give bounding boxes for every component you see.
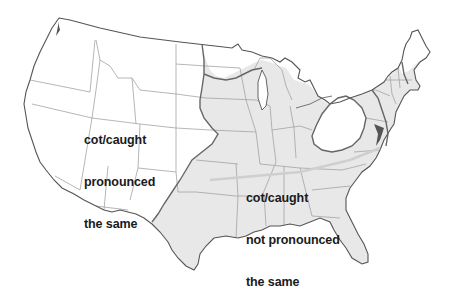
label-merged-line2: pronounced — [84, 175, 155, 189]
label-merged-line3: the same — [84, 217, 155, 231]
us-dialect-map: cot/caught pronounced the same cot/caugh… — [0, 0, 452, 295]
label-distinct-line3: the same — [246, 275, 340, 289]
map-graphic — [0, 0, 452, 295]
label-merged-region: cot/caught pronounced the same — [84, 105, 155, 259]
label-distinct-line1: cot/caught — [246, 191, 340, 205]
label-distinct-region: cot/caught not pronounced the same — [246, 163, 340, 295]
label-distinct-line2: not pronounced — [246, 233, 340, 247]
label-merged-line1: cot/caught — [84, 133, 155, 147]
